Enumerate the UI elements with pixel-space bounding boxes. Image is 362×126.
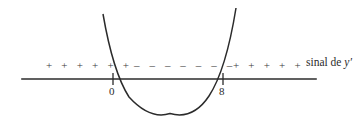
tick-label-8: 8	[219, 85, 225, 97]
sign-chart-figure: + + + + + + – – – – – – – + + + + + sina…	[0, 0, 362, 126]
axis-caption: sinal de y′	[306, 56, 352, 68]
sign-region-right-plus: + + + + +	[233, 60, 304, 71]
axis-caption-variable: y′	[344, 56, 352, 68]
axis-caption-prefix: sinal de	[306, 56, 344, 68]
sign-region-left-plus: + + + + + +	[46, 60, 132, 71]
tick-label-0: 0	[109, 85, 115, 97]
sign-region-middle-minus: – – – – – – –	[134, 60, 236, 71]
